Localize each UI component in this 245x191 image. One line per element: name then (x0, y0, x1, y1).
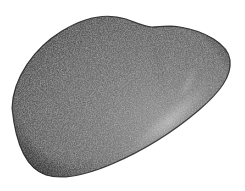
specimen-illustration (0, 0, 245, 191)
figure-canvas: Monochrome stippled engraving of a smoot… (0, 0, 245, 191)
